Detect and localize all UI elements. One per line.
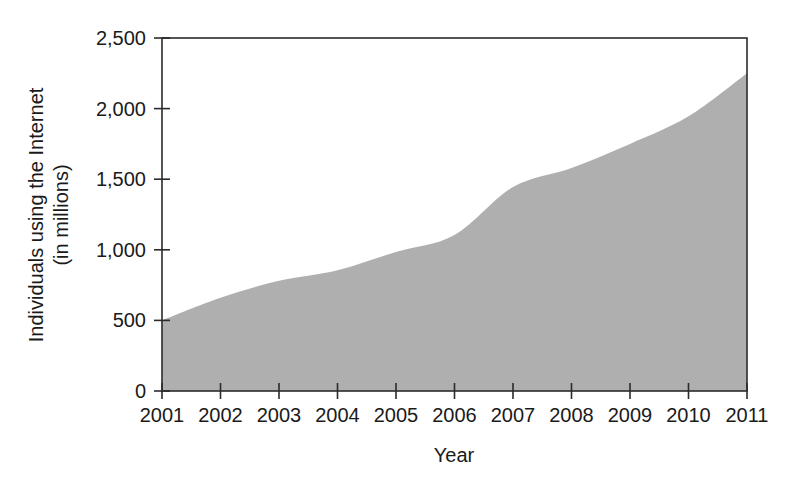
x-tick-label-2004: 2004 <box>315 404 360 426</box>
x-tick-label-2001: 2001 <box>140 404 185 426</box>
x-tick-label-2003: 2003 <box>257 404 302 426</box>
x-tick-label-2007: 2007 <box>491 404 536 426</box>
y-tick-label-2,500: 2,500 <box>96 27 146 49</box>
y-tick-label-500: 500 <box>113 309 146 331</box>
x-axis-tick-labels: 2001200220032004200520062007200820092010… <box>140 404 769 426</box>
x-tick-label-2002: 2002 <box>198 404 243 426</box>
y-tick-label-1,500: 1,500 <box>96 168 146 190</box>
y-axis-tick-labels: 05001,0001,5002,0002,500 <box>96 27 146 402</box>
x-tick-label-2010: 2010 <box>666 404 711 426</box>
x-tick-label-2008: 2008 <box>549 404 594 426</box>
x-tick-label-2011: 2011 <box>725 404 768 426</box>
x-axis-label: Year <box>434 444 475 466</box>
y-tick-label-0: 0 <box>135 380 146 402</box>
y-tick-label-2,000: 2,000 <box>96 98 146 120</box>
y-axis-label-line1: Individuals using the Internet <box>25 87 47 342</box>
y-axis-label-line2: (in millions) <box>50 164 72 265</box>
area-chart-svg: 05001,0001,5002,0002,500 200120022003200… <box>0 0 802 489</box>
x-tick-label-2005: 2005 <box>374 404 419 426</box>
x-tick-label-2009: 2009 <box>608 404 653 426</box>
y-tick-label-1,000: 1,000 <box>96 239 146 261</box>
x-tick-label-2006: 2006 <box>432 404 477 426</box>
chart-figure: 05001,0001,5002,0002,500 200120022003200… <box>0 0 802 489</box>
